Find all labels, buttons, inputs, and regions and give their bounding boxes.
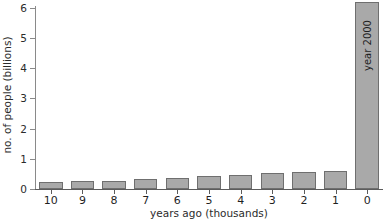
x-axis-tick-label: 9 — [67, 194, 97, 207]
x-axis-title: years ago (thousands) — [35, 207, 383, 219]
population-bar-chart: no. of people (billions) 0123456 year 20… — [0, 0, 387, 219]
x-axis-tick-label: 1 — [321, 194, 351, 207]
x-axis-ticks: 109876543210 — [0, 0, 387, 219]
x-axis-tick-label: 3 — [257, 194, 287, 207]
x-axis-tick-label: 6 — [162, 194, 192, 207]
x-axis-tick-label: 4 — [226, 194, 256, 207]
x-axis-tick-label: 7 — [131, 194, 161, 207]
x-axis-tick-label: 8 — [99, 194, 129, 207]
x-axis-tick-label: 2 — [289, 194, 319, 207]
x-axis-tick-label: 0 — [352, 194, 382, 207]
x-axis-tick-label: 10 — [36, 194, 66, 207]
x-axis-tick-label: 5 — [194, 194, 224, 207]
